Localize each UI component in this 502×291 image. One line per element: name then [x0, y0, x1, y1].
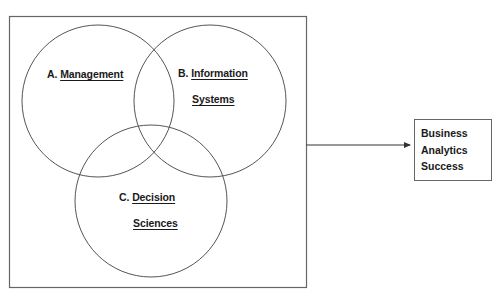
label-set-a-prefix: A.	[47, 68, 57, 80]
label-set-c-name-cont: Sciences	[133, 217, 178, 229]
label-set-a-name: Management	[60, 68, 123, 80]
outcome-line-1: Business	[421, 125, 468, 142]
label-set-c-prefix: C.	[119, 191, 129, 203]
label-set-c-name: Decision	[132, 191, 175, 203]
label-set-b-line1: B. Information	[178, 68, 248, 79]
label-set-b-name: Information	[191, 67, 248, 79]
label-set-c-line2: Sciences	[133, 218, 178, 229]
outcome-line-3: Success	[421, 158, 468, 175]
outcome-label: Business Analytics Success	[421, 125, 468, 175]
label-set-c-line1: C. Decision	[119, 192, 175, 203]
outcome-line-2: Analytics	[421, 142, 468, 159]
venn-container-box	[10, 17, 307, 288]
circle-management	[22, 25, 174, 177]
label-set-b-name-cont: Systems	[192, 93, 235, 105]
label-set-a: A. Management	[47, 69, 123, 80]
label-set-b-prefix: B.	[178, 67, 188, 79]
label-set-b-line2: Systems	[192, 94, 235, 105]
